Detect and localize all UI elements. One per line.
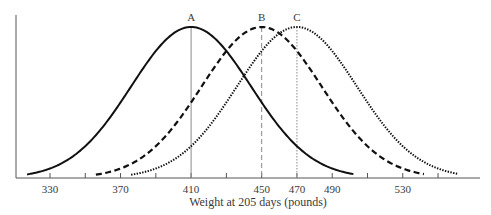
x-tick-label: 410	[183, 183, 200, 195]
peak-labels: ABC	[187, 11, 300, 23]
x-tick-label: 530	[395, 183, 412, 195]
x-axis-label: Weight at 205 days (pounds)	[189, 195, 327, 209]
curves	[27, 27, 457, 175]
x-tick-labels: 330370410450470490530	[42, 183, 412, 195]
peak-label-c: C	[293, 11, 300, 23]
x-tick-label: 450	[253, 183, 270, 195]
x-tick-label: 330	[42, 183, 59, 195]
distribution-chart: 330370410450470490530 ABC Weight at 205 …	[0, 0, 491, 215]
x-tick-label: 370	[112, 183, 129, 195]
mean-lines	[191, 27, 297, 178]
x-tick-label: 470	[289, 183, 306, 195]
axes: 330370410450470490530	[16, 15, 480, 195]
peak-label-b: B	[258, 11, 265, 23]
peak-label-a: A	[187, 11, 195, 23]
x-tick-label: 490	[324, 183, 341, 195]
x-ticks	[50, 173, 438, 178]
curve-a	[27, 27, 353, 174]
